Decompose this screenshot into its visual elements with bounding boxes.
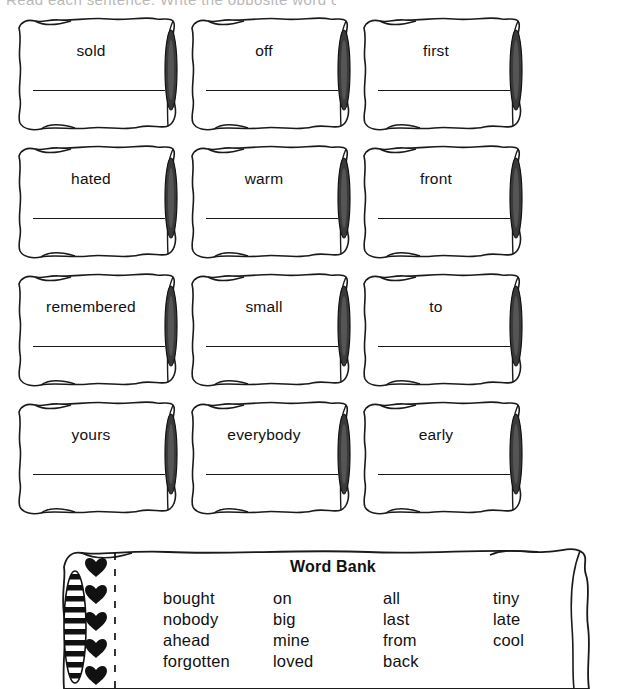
pillow-word: yours bbox=[21, 426, 161, 444]
pillow-word: early bbox=[366, 426, 506, 444]
answer-line[interactable] bbox=[206, 218, 338, 219]
answer-line[interactable] bbox=[33, 474, 165, 475]
pillow-word: first bbox=[366, 42, 506, 60]
word-bank-column: all last from back bbox=[383, 588, 493, 672]
pillow-card[interactable]: small bbox=[184, 268, 362, 396]
striped-seam-icon bbox=[64, 571, 86, 683]
pillow-word: to bbox=[366, 298, 506, 316]
word-bank-word: forgotten bbox=[163, 651, 273, 672]
pillow-shape bbox=[184, 12, 362, 140]
pillow-card[interactable]: front bbox=[356, 140, 534, 268]
pillow-card[interactable]: to bbox=[356, 268, 534, 396]
word-bank-column: bought nobody ahead forgotten bbox=[163, 588, 273, 672]
pillow-shape bbox=[11, 12, 189, 140]
word-bank-word: ahead bbox=[163, 630, 273, 651]
pillow-word: everybody bbox=[194, 426, 334, 444]
pillow-shape bbox=[184, 396, 362, 524]
word-bank-columns: bought nobody ahead forgotten on big min… bbox=[163, 588, 583, 672]
pillow-card[interactable]: yours bbox=[11, 396, 189, 524]
word-bank-word: from bbox=[383, 630, 493, 651]
answer-line[interactable] bbox=[33, 218, 165, 219]
pillow-card[interactable]: first bbox=[356, 12, 534, 140]
pillow-shape bbox=[11, 268, 189, 396]
pillow-word: sold bbox=[21, 42, 161, 60]
pillow-shape bbox=[184, 140, 362, 268]
pillow-shape bbox=[356, 140, 534, 268]
answer-line[interactable] bbox=[33, 90, 165, 91]
answer-line[interactable] bbox=[378, 218, 510, 219]
pillow-card[interactable]: sold bbox=[11, 12, 189, 140]
word-bank-word: late bbox=[493, 609, 578, 630]
word-bank-word: bought bbox=[163, 588, 273, 609]
answer-line[interactable] bbox=[206, 346, 338, 347]
pillow-word: small bbox=[194, 298, 334, 316]
pillow-card[interactable]: off bbox=[184, 12, 362, 140]
answer-line[interactable] bbox=[378, 474, 510, 475]
pillow-card[interactable]: early bbox=[356, 396, 534, 524]
pillow-shape bbox=[356, 396, 534, 524]
page-instruction-text: Read each sentence. Write the opposite w… bbox=[6, 0, 336, 5]
pillow-card[interactable]: warm bbox=[184, 140, 362, 268]
word-bank-word: big bbox=[273, 609, 383, 630]
answer-line[interactable] bbox=[206, 90, 338, 91]
answer-line[interactable] bbox=[33, 346, 165, 347]
word-bank-word: mine bbox=[273, 630, 383, 651]
pillow-shape bbox=[184, 268, 362, 396]
word-bank-word: nobody bbox=[163, 609, 273, 630]
pillow-shape bbox=[11, 140, 189, 268]
word-bank-word: tiny bbox=[493, 588, 578, 609]
answer-line[interactable] bbox=[378, 346, 510, 347]
answer-line[interactable] bbox=[206, 474, 338, 475]
pillow-shape bbox=[356, 12, 534, 140]
word-bank-word: back bbox=[383, 651, 493, 672]
word-bank-word: on bbox=[273, 588, 383, 609]
word-bank-word: last bbox=[383, 609, 493, 630]
pillow-word: hated bbox=[21, 170, 161, 188]
page-instruction-fragment: Read each sentence. Write the opposite w… bbox=[6, 0, 336, 5]
word-bank-column: tiny late cool bbox=[493, 588, 578, 672]
word-bank-word: all bbox=[383, 588, 493, 609]
answer-line[interactable] bbox=[378, 90, 510, 91]
pillow-word: front bbox=[366, 170, 506, 188]
pillow-word: off bbox=[194, 42, 334, 60]
word-bank-column: on big mine loved bbox=[273, 588, 383, 672]
pillow-shape bbox=[11, 396, 189, 524]
word-bank-title: Word Bank bbox=[168, 558, 498, 576]
pillow-shape bbox=[356, 268, 534, 396]
pillow-word: remembered bbox=[21, 298, 161, 316]
pillow-card[interactable]: everybody bbox=[184, 396, 362, 524]
pillow-card[interactable]: remembered bbox=[11, 268, 189, 396]
word-bank-word: loved bbox=[273, 651, 383, 672]
word-bank-word: cool bbox=[493, 630, 578, 651]
word-bank-panel: Word Bank bought nobody ahead forgotten … bbox=[58, 541, 641, 689]
pillow-card[interactable]: hated bbox=[11, 140, 189, 268]
pillow-word: warm bbox=[194, 170, 334, 188]
